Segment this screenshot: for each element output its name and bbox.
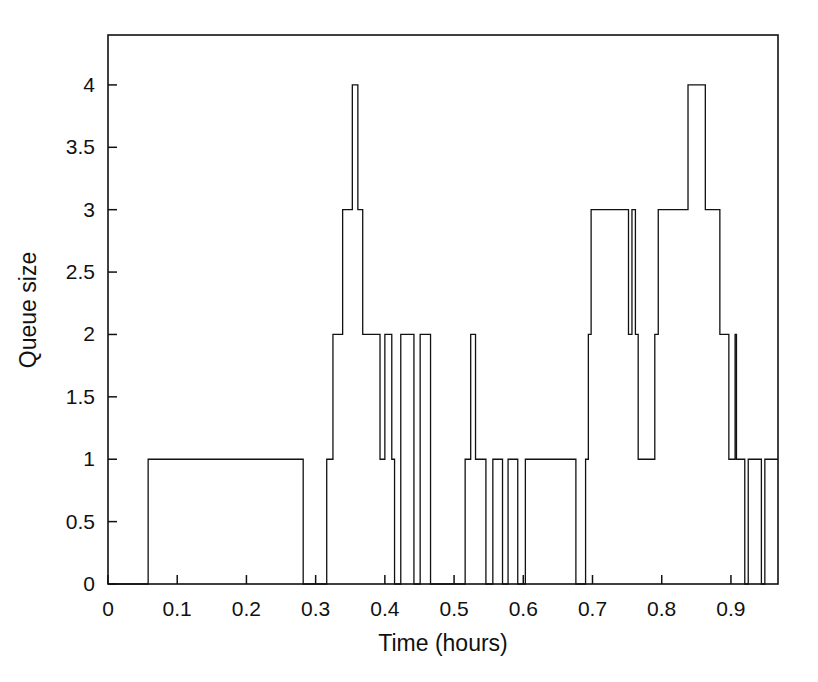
x-tick-label: 0.4 — [370, 597, 400, 620]
x-tick-label: 0.6 — [509, 597, 538, 620]
queue-size-step-chart: 00.10.20.30.40.50.60.70.80.9 00.511.522.… — [0, 0, 818, 682]
y-tick-label: 1.5 — [66, 385, 95, 408]
y-tick-label: 4 — [83, 73, 95, 96]
chart-background — [0, 0, 818, 682]
x-tick-label: 0.5 — [439, 597, 468, 620]
x-tick-label: 0.2 — [232, 597, 261, 620]
chart-figure: 00.10.20.30.40.50.60.70.80.9 00.511.522.… — [0, 0, 818, 682]
y-tick-label: 2.5 — [66, 260, 95, 283]
y-tick-label: 3.5 — [66, 135, 95, 158]
y-tick-label: 0.5 — [66, 510, 95, 533]
x-axis-title: Time (hours) — [378, 630, 508, 656]
x-tick-label: 0.9 — [716, 597, 745, 620]
y-tick-label: 0 — [83, 572, 95, 595]
y-tick-label: 3 — [83, 198, 95, 221]
x-tick-label: 0.3 — [301, 597, 330, 620]
x-tick-label: 0 — [102, 597, 114, 620]
y-axis-title: Queue size — [15, 252, 41, 368]
x-tick-label: 0.8 — [647, 597, 676, 620]
y-tick-label: 2 — [83, 322, 95, 345]
x-tick-label: 0.7 — [578, 597, 607, 620]
y-tick-label: 1 — [83, 447, 95, 470]
x-tick-label: 0.1 — [163, 597, 192, 620]
